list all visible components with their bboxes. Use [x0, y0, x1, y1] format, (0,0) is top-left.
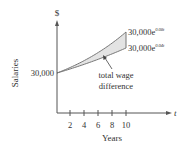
x-axis-variable: t: [174, 108, 177, 118]
x-tick-label: 2: [68, 120, 72, 130]
x-axis-title: Years: [102, 133, 123, 143]
y-start-value: 30,000: [31, 68, 54, 78]
x-tick-label: 6: [96, 120, 100, 130]
y-axis-unit: $: [55, 8, 60, 18]
upper-curve-label: 30,000e0.08t: [128, 27, 165, 37]
y-axis-title: Salaries: [10, 58, 20, 87]
salary-chart: 2 4 6 8 10 Years t $ Salaries 30,000 30,…: [0, 0, 181, 153]
x-axis-arrow-icon: [166, 111, 172, 115]
x-tick-label: 10: [122, 120, 131, 130]
annotation-line-1: total wage: [98, 70, 133, 80]
annotation-line-2: difference: [99, 81, 134, 91]
lower-curve-label: 30,000e0.04t: [128, 43, 165, 53]
y-axis-arrow-icon: [55, 20, 59, 26]
x-tick-label: 4: [82, 120, 87, 130]
x-tick-label: 8: [110, 120, 114, 130]
annotation-arrow: [105, 58, 112, 69]
